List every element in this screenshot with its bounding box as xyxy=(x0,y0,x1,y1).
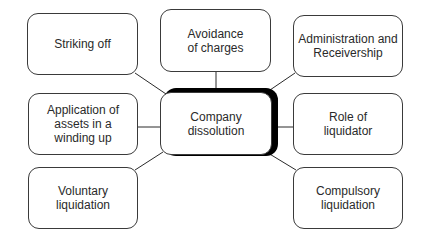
mind-map-diagram: Striking off Avoidance of charges Admini… xyxy=(0,0,429,240)
node-striking-off: Striking off xyxy=(27,13,138,75)
node-label: Voluntary liquidation xyxy=(56,184,110,212)
node-role-of-liquidator: Role of liquidator xyxy=(293,93,403,155)
node-avoidance-of-charges: Avoidance of charges xyxy=(160,9,271,72)
connector-voluntary-liquidation xyxy=(135,152,163,170)
node-label: Compulsory liquidation xyxy=(316,184,380,212)
node-company-dissolution: Company dissolution xyxy=(160,92,272,155)
node-administration-and-receivership: Administration and Receivership xyxy=(293,15,403,77)
node-voluntary-liquidation: Voluntary liquidation xyxy=(28,167,138,229)
node-label: Avoidance of charges xyxy=(187,27,243,55)
connector-compulsory-liquidation xyxy=(268,153,296,170)
node-label: Striking off xyxy=(54,37,110,51)
connector-administration xyxy=(270,73,295,90)
node-application-of-assets: Application of assets in a winding up xyxy=(28,93,138,155)
node-label: Role of liquidator xyxy=(324,110,373,138)
node-label: Application of assets in a winding up xyxy=(47,103,119,145)
connector-striking-off xyxy=(135,73,166,94)
node-compulsory-liquidation: Compulsory liquidation xyxy=(293,167,403,229)
node-label: Administration and Receivership xyxy=(298,32,397,60)
center-node-label: Company dissolution xyxy=(188,110,245,138)
